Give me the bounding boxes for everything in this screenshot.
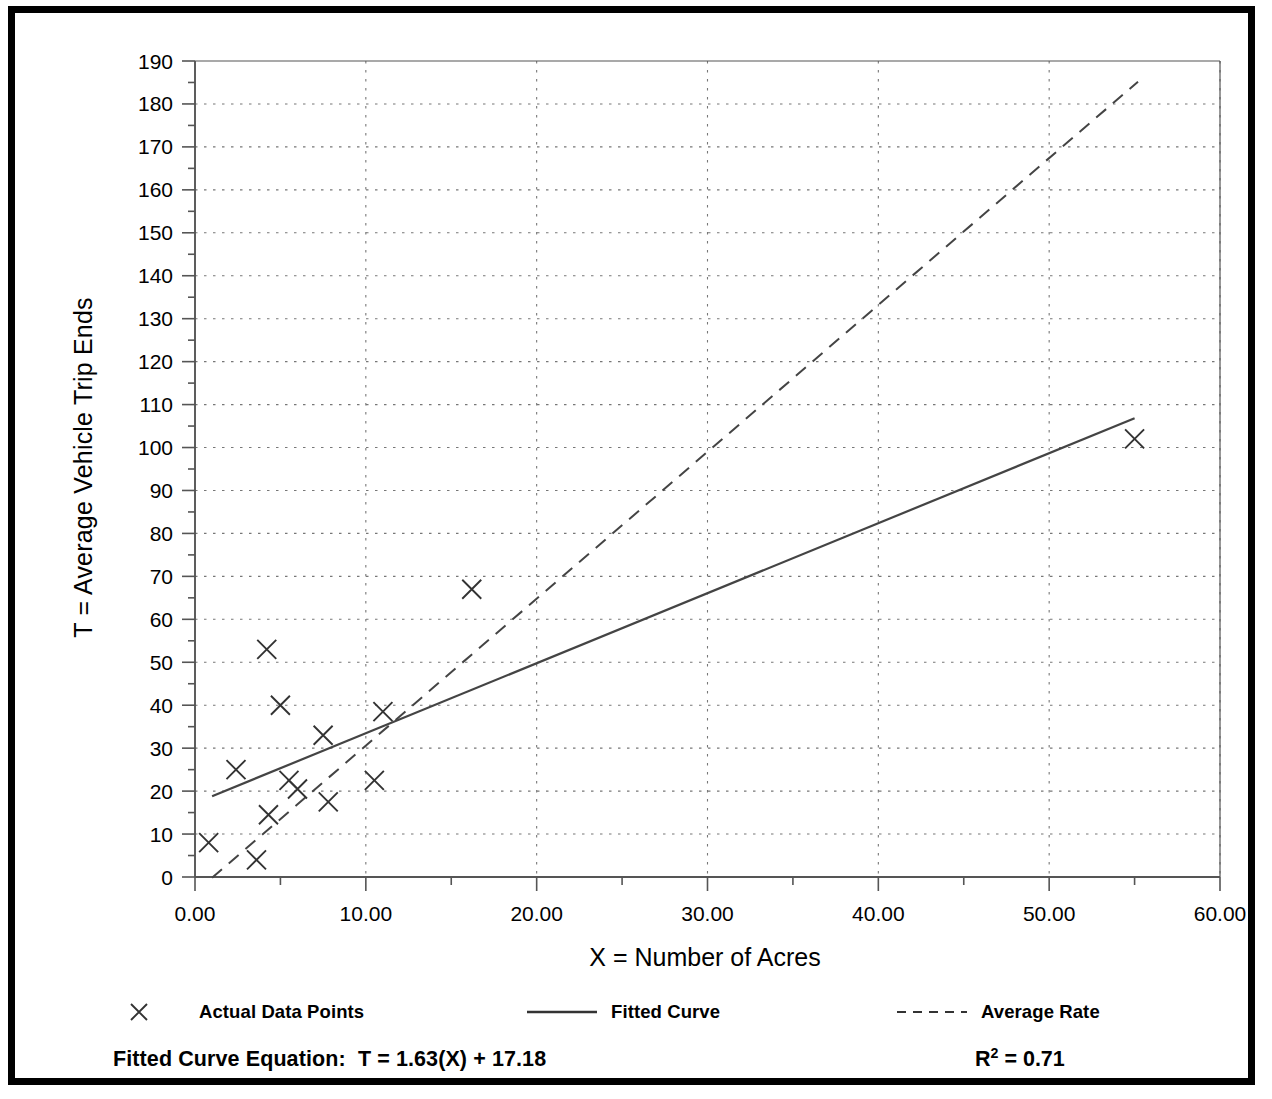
data-point-marker: [259, 805, 278, 824]
y-axis-tick-label: 180: [138, 92, 173, 115]
legend-label-fitted-curve: Fitted Curve: [611, 1001, 720, 1023]
x-axis-tick-label: 30.00: [681, 902, 734, 925]
y-axis-tick-label: 30: [150, 737, 173, 760]
data-point-marker: [247, 850, 266, 869]
data-point-marker: [199, 833, 218, 852]
legend-item-actual-data-points[interactable]: Actual Data Points: [113, 991, 364, 1033]
y-axis-tick-label: 90: [150, 479, 173, 502]
x-axis-title: X = Number of Acres: [195, 943, 1215, 972]
y-axis-tick-label: 80: [150, 522, 173, 545]
y-axis-tick-label: 40: [150, 694, 173, 717]
y-axis-tick-label: 20: [150, 780, 173, 803]
chart-frame-border: 0102030405060708090100110120130140150160…: [8, 6, 1255, 1085]
chart-page: 0102030405060708090100110120130140150160…: [0, 0, 1272, 1099]
data-point-marker: [319, 792, 338, 811]
y-axis-tick-label: 120: [138, 350, 173, 373]
y-axis-tick-label: 10: [150, 823, 173, 846]
data-point-marker: [373, 702, 392, 721]
axis-tick-marks: [182, 61, 1220, 891]
grid-lines: [195, 61, 1220, 877]
legend-item-average-rate[interactable]: Average Rate: [895, 991, 1100, 1033]
equation-value: T = 1.63(X) + 17.18: [358, 1047, 546, 1071]
data-point-marker: [1125, 429, 1144, 448]
x-axis-tick-labels: 0.0010.0020.0030.0040.0050.0060.00: [175, 902, 1247, 925]
data-point-marker: [365, 771, 384, 790]
y-axis-tick-label: 160: [138, 178, 173, 201]
y-axis-tick-label: 170: [138, 135, 173, 158]
x-axis-tick-label: 60.00: [1194, 902, 1247, 925]
data-point-marker: [314, 726, 333, 745]
chart-footer: Fitted Curve Equation: T = 1.63(X) + 17.…: [105, 1043, 1215, 1089]
scatter-plot-svg: 0102030405060708090100110120130140150160…: [15, 13, 1248, 1078]
trend-lines: [212, 82, 1138, 878]
y-axis-tick-label: 110: [140, 393, 173, 416]
data-point-markers: [199, 429, 1144, 869]
dashed-line-icon: [895, 999, 969, 1025]
x-axis-tick-label: 50.00: [1023, 902, 1076, 925]
y-axis-tick-label: 150: [138, 221, 173, 244]
y-axis-tick-label: 190: [138, 50, 173, 73]
y-axis-tick-label: 130: [138, 307, 173, 330]
y-axis-title: T = Average Vehicle Trip Ends: [69, 208, 98, 728]
average-rate-line: [212, 82, 1138, 878]
x-axis-tick-label: 0.00: [175, 902, 216, 925]
chart-legend: Actual Data Points Fitted Curve: [105, 991, 1215, 1033]
data-point-marker: [288, 779, 307, 798]
y-axis-tick-labels: 0102030405060708090100110120130140150160…: [138, 50, 173, 889]
y-axis-tick-label: 0: [161, 866, 173, 889]
x-axis-tick-label: 20.00: [510, 902, 563, 925]
data-point-marker: [462, 580, 481, 599]
equation-label: Fitted Curve Equation:: [113, 1047, 346, 1071]
x-axis-tick-label: 40.00: [852, 902, 905, 925]
data-point-marker: [227, 760, 246, 779]
solid-line-icon: [525, 999, 599, 1025]
r-squared-value: R2 = 0.71: [975, 1047, 1065, 1072]
x-axis-tick-label: 10.00: [340, 902, 393, 925]
r-squared-exponent: 2: [991, 1045, 999, 1061]
r-squared-symbol: R: [975, 1047, 991, 1071]
y-axis-tick-label: 140: [138, 264, 173, 287]
r-squared-number: = 0.71: [1004, 1047, 1064, 1071]
y-axis-tick-label: 50: [150, 651, 173, 674]
chart-area: 0102030405060708090100110120130140150160…: [15, 13, 1248, 1078]
legend-label-average-rate: Average Rate: [981, 1001, 1100, 1023]
y-axis-tick-label: 60: [150, 608, 173, 631]
x-marker-icon: [113, 999, 187, 1025]
data-point-marker: [257, 640, 276, 659]
legend-item-fitted-curve[interactable]: Fitted Curve: [525, 991, 720, 1033]
y-axis-tick-label: 70: [150, 565, 173, 588]
fitted-curve-equation: Fitted Curve Equation: T = 1.63(X) + 17.…: [113, 1047, 546, 1072]
fitted-curve-line: [212, 418, 1135, 796]
legend-label-actual-data-points: Actual Data Points: [199, 1001, 364, 1023]
y-axis-tick-label: 100: [138, 436, 173, 459]
